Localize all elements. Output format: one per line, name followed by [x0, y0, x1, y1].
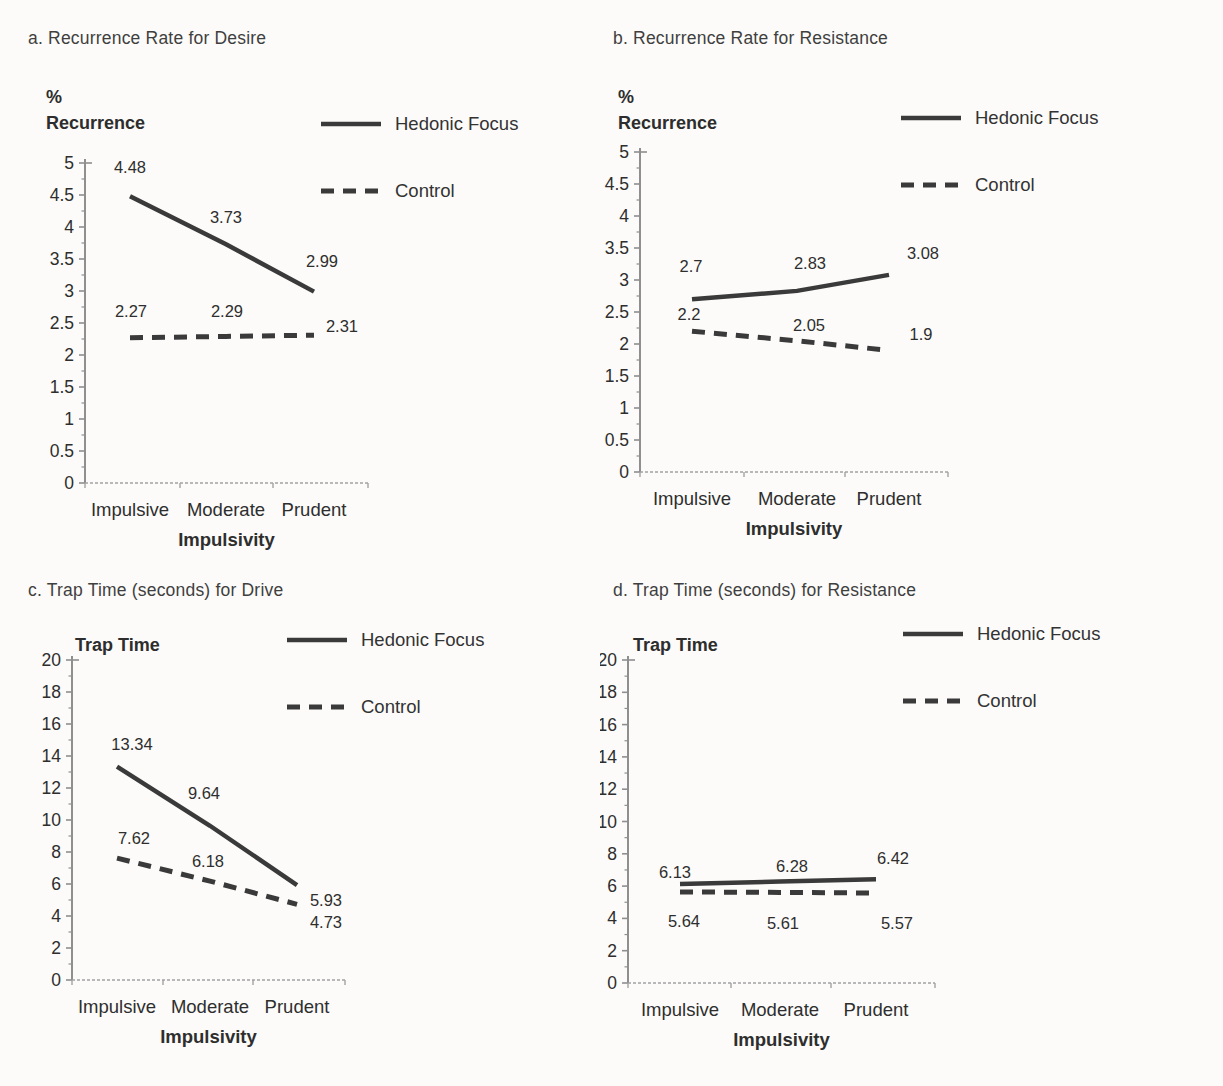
- y-tick-label: 2.5: [605, 302, 629, 322]
- y-tick-label: 0: [64, 473, 74, 493]
- y-tick-label: 14: [42, 746, 62, 766]
- data-label: 2.05: [793, 316, 825, 334]
- y-tick-label: 2: [64, 345, 74, 365]
- category-label: Moderate: [741, 999, 819, 1020]
- data-label: 5.93: [310, 891, 342, 909]
- y-tick-label: 12: [42, 778, 61, 798]
- data-label: 6.13: [659, 863, 691, 881]
- data-label: 2.27: [115, 302, 147, 320]
- y-tick-label: 18: [600, 682, 617, 702]
- panel-b: b. Recurrence Rate for Resistance % Recu…: [600, 0, 1223, 560]
- y-tick-label: 6: [607, 876, 617, 896]
- y-tick-label: 4: [51, 906, 61, 926]
- y-tick-label: 2: [607, 941, 617, 961]
- data-label: 4.48: [114, 158, 146, 176]
- y-tick-label: 14: [600, 747, 617, 767]
- x-axis-title: Impulsivity: [733, 1029, 830, 1050]
- category-label: Prudent: [857, 488, 922, 509]
- data-label: 2.2: [678, 305, 701, 323]
- y-tick-label: 10: [600, 812, 617, 832]
- category-label: Impulsive: [641, 999, 719, 1020]
- data-label: 9.64: [188, 784, 220, 802]
- y-tick-label: 16: [600, 715, 617, 735]
- data-label: 6.42: [877, 849, 909, 867]
- y-tick-label: 4: [64, 217, 74, 237]
- category-label: Moderate: [758, 488, 836, 509]
- y-tick-label: 1.5: [605, 366, 629, 386]
- y-tick-label: 2: [619, 334, 629, 354]
- category-label: Prudent: [265, 996, 330, 1017]
- series-control-line: [680, 892, 876, 893]
- data-label: 5.64: [668, 912, 700, 930]
- data-label: 2.99: [306, 252, 338, 270]
- y-tick-label: 4.5: [605, 174, 629, 194]
- figure-four-panel-charts: a. Recurrence Rate for Desire % Recurren…: [0, 0, 1223, 1086]
- x-axis-title: Impulsivity: [746, 518, 843, 539]
- y-tick-label: 8: [607, 844, 617, 864]
- data-label: 6.28: [776, 857, 808, 875]
- line-chart-c: 02468101214161820ImpulsiveModeratePruden…: [0, 560, 600, 1086]
- data-label: 2.29: [211, 302, 243, 320]
- data-label: 5.61: [767, 914, 799, 932]
- category-label: Prudent: [844, 999, 909, 1020]
- category-label: Impulsive: [91, 499, 169, 520]
- series-hedonic-focus-line: [680, 879, 876, 884]
- series-control-line: [692, 331, 889, 350]
- y-tick-label: 3: [619, 270, 629, 290]
- data-label: 3.73: [210, 208, 242, 226]
- y-tick-label: 5: [64, 153, 74, 173]
- y-tick-label: 5: [619, 142, 629, 162]
- data-label: 3.08: [907, 244, 939, 262]
- y-tick-label: 0: [51, 970, 61, 990]
- y-tick-label: 0: [619, 462, 629, 482]
- panel-c: c. Trap Time (seconds) for Drive Trap Ti…: [0, 560, 600, 1086]
- y-tick-label: 4: [607, 908, 617, 928]
- data-label: 6.18: [192, 852, 224, 870]
- x-axis-title: Impulsivity: [160, 1026, 257, 1047]
- panel-a: a. Recurrence Rate for Desire % Recurren…: [0, 0, 600, 560]
- y-tick-label: 20: [42, 650, 62, 670]
- y-tick-label: 0.5: [605, 430, 629, 450]
- y-tick-label: 3: [64, 281, 74, 301]
- y-tick-label: 12: [600, 779, 617, 799]
- y-tick-label: 10: [42, 810, 62, 830]
- y-tick-label: 3.5: [605, 238, 629, 258]
- y-tick-label: 6: [51, 874, 61, 894]
- y-tick-label: 3.5: [50, 249, 74, 269]
- category-label: Moderate: [187, 499, 265, 520]
- y-tick-label: 1: [619, 398, 629, 418]
- y-tick-label: 18: [42, 682, 61, 702]
- y-tick-label: 0.5: [50, 441, 74, 461]
- y-tick-label: 16: [42, 714, 61, 734]
- category-label: Impulsive: [653, 488, 731, 509]
- line-chart-d: 02468101214161820ImpulsiveModeratePruden…: [600, 560, 1223, 1086]
- data-label: 2.83: [794, 254, 826, 272]
- y-tick-label: 1.5: [50, 377, 74, 397]
- data-label: 7.62: [118, 829, 150, 847]
- data-label: 4.73: [310, 913, 342, 931]
- line-chart-a: 00.511.522.533.544.55ImpulsiveModeratePr…: [0, 0, 600, 560]
- y-tick-label: 1: [64, 409, 74, 429]
- y-tick-label: 4: [619, 206, 629, 226]
- y-tick-label: 2.5: [50, 313, 74, 333]
- data-label: 1.9: [910, 325, 933, 343]
- y-tick-label: 0: [607, 973, 617, 993]
- category-label: Impulsive: [78, 996, 156, 1017]
- series-hedonic-focus-line: [692, 275, 889, 299]
- y-tick-label: 4.5: [50, 185, 74, 205]
- x-axis-title: Impulsivity: [178, 529, 275, 550]
- y-tick-label: 2: [51, 938, 61, 958]
- line-chart-b: 00.511.522.533.544.55ImpulsiveModeratePr…: [600, 0, 1223, 560]
- category-label: Moderate: [171, 996, 249, 1017]
- series-control-line: [130, 335, 314, 338]
- data-label: 13.34: [111, 735, 152, 753]
- data-label: 2.7: [680, 257, 703, 275]
- y-tick-label: 20: [600, 650, 617, 670]
- category-label: Prudent: [282, 499, 347, 520]
- data-label: 5.57: [881, 914, 913, 932]
- data-label: 2.31: [326, 317, 358, 335]
- panel-d: d. Trap Time (seconds) for Resistance Tr…: [600, 560, 1223, 1086]
- y-tick-label: 8: [51, 842, 61, 862]
